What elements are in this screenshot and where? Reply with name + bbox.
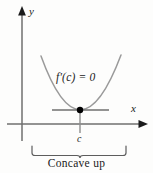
critical-point-dot <box>77 107 83 113</box>
x-axis-label: x <box>131 103 136 114</box>
y-axis-label: y <box>29 6 34 17</box>
derivative-annotation-label: f′(c) = 0 <box>56 72 96 84</box>
x-axis-arrowhead-icon <box>139 120 149 128</box>
x-axis <box>7 120 148 128</box>
concavity-figure: y x f′(c) = 0 c Concave up <box>0 0 153 173</box>
figure-canvas <box>0 0 153 173</box>
concavity-caption: Concave up <box>0 158 153 170</box>
y-axis <box>18 6 26 141</box>
critical-point-label: c <box>77 134 81 144</box>
y-axis-arrowhead-icon <box>18 6 26 16</box>
